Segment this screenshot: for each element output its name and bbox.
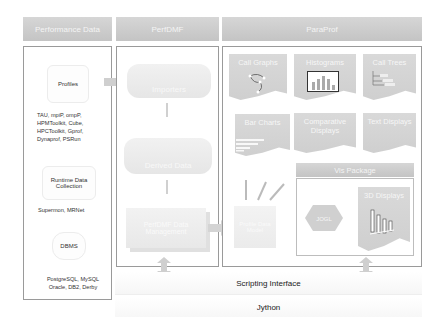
down-arrow-icon	[166, 103, 168, 117]
performance-data-header: Performance Data	[23, 17, 112, 41]
jogl-label: JOGL	[316, 216, 332, 222]
scripting-interface-label: Scripting Interface	[236, 279, 300, 288]
dbms-list-line: PostgreSQL, MySQL	[38, 275, 108, 283]
bar-chart-icon	[236, 138, 268, 152]
3d-bars-icon	[368, 207, 398, 237]
dbms-list: PostgreSQL, MySQL Oracle, DB2, Derby	[38, 275, 108, 291]
3d-displays-label: 3D Displays	[364, 191, 404, 200]
jython-label: Jython	[257, 303, 281, 312]
perfdmf-title: PerfDMF	[152, 25, 184, 34]
runtime-tools: Supermon, MRNet	[38, 206, 108, 214]
profiles-box: Profiles	[47, 65, 89, 103]
perfdmf-header: PerfDMF	[116, 17, 219, 41]
histogram-icon	[307, 71, 339, 92]
histograms-label: Histograms	[306, 58, 344, 67]
data-management-box: PerfDMF Data Management	[126, 208, 206, 248]
derived-data-label: Derived Data	[145, 161, 192, 170]
vis-package-title: Vis Package	[334, 166, 376, 175]
profile-formats-line: TAU, mpiP, ompP,	[37, 111, 111, 119]
vis-package-header: Vis Package	[296, 163, 414, 177]
call-tree-icon	[370, 68, 400, 90]
importers-label: Importers	[152, 85, 186, 94]
jython-band: Jython	[115, 297, 422, 317]
profiles-label: Profiles	[58, 81, 78, 87]
call-graphs-label: Call Graphs	[238, 58, 278, 67]
derived-data-box: Derived Data	[124, 138, 212, 174]
scripting-interface-band: Scripting Interface	[115, 272, 422, 295]
profile-formats-line: HPMToolkit, Cube,	[37, 119, 111, 127]
bar-charts-label: Bar Charts	[245, 118, 281, 127]
performance-data-title: Performance Data	[35, 25, 100, 34]
call-graph-icon	[246, 70, 270, 96]
runtime-data-box: Runtime Data Collection	[42, 166, 96, 200]
paraprof-header: ParaProf	[222, 17, 422, 41]
profile-data-model-label: Profile Data Model	[234, 221, 276, 233]
dbms-cylinder: DBMS	[52, 232, 86, 260]
paraprof-title: ParaProf	[306, 25, 338, 34]
comparative-displays-label: Comparative Displays	[304, 117, 347, 135]
runtime-tools-text: Supermon, MRNet	[38, 207, 84, 213]
dbms-list-line: Oracle, DB2, Derby	[38, 283, 108, 291]
runtime-label: Collection	[56, 183, 82, 189]
profile-formats-line: HPCToolkit, Gprof,	[37, 127, 111, 135]
up-arrows-icon	[240, 178, 290, 202]
down-arrow-icon	[166, 180, 168, 194]
jogl-hexagon: JOGL	[305, 205, 343, 231]
profile-formats-line: Dynaprof, PSRun	[37, 135, 111, 143]
dbms-label: DBMS	[60, 243, 77, 249]
importers-box: Importers	[127, 64, 211, 98]
call-trees-label: Call Trees	[373, 58, 407, 67]
profile-formats: TAU, mpiP, ompP, HPMToolkit, Cube, HPCTo…	[37, 111, 111, 143]
data-management-label: PerfDMF Data Management	[126, 221, 206, 235]
profile-data-model-cube: Profile Data Model	[234, 206, 276, 248]
text-displays-label: Text Displays	[367, 117, 411, 126]
